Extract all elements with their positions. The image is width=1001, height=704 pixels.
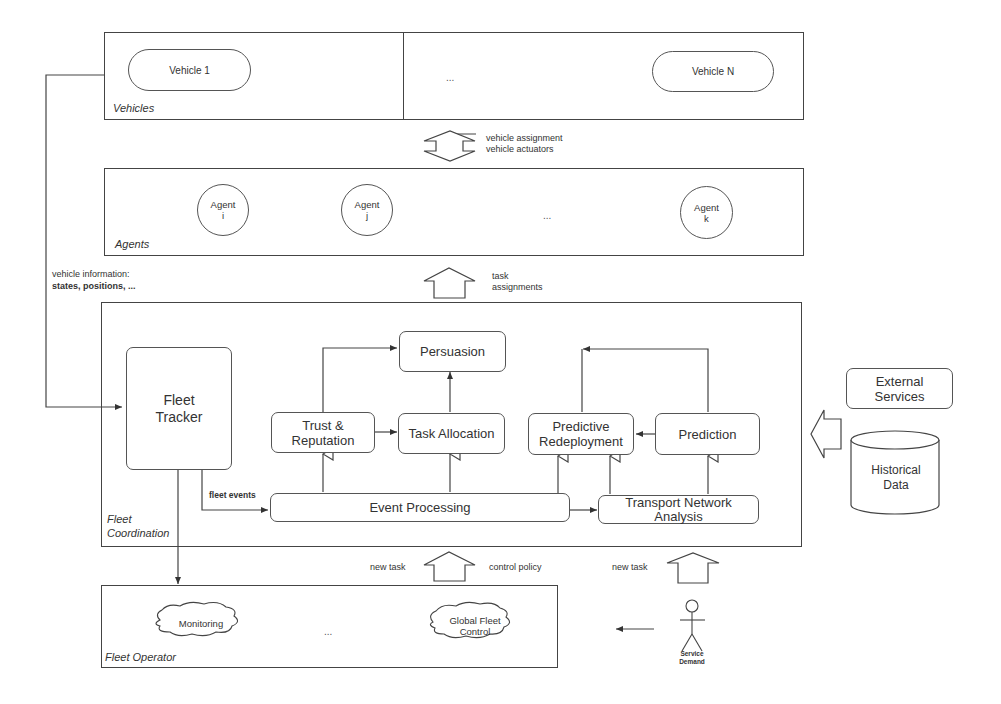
task-allocation-node[interactable]: Task Allocation — [398, 413, 505, 454]
vehicle-n-node[interactable]: Vehicle N — [652, 51, 774, 92]
actor-icon — [680, 600, 705, 651]
external-services-node[interactable]: External Services — [846, 368, 953, 409]
vehicles-ellipsis: ... — [446, 72, 454, 83]
fleet-events-label: fleet events — [209, 490, 256, 501]
monitoring-node[interactable]: Monitoring — [166, 618, 236, 629]
prediction-node[interactable]: Prediction — [655, 413, 760, 455]
control-policy-label: control policy — [489, 562, 542, 573]
task-assignments-label: task assignments — [492, 271, 543, 293]
event-processing-node[interactable]: Event Processing — [270, 493, 570, 522]
vehicle-information-detail: states, positions, ... — [52, 281, 136, 292]
fleet-coordination-layer-label: Fleet Coordination — [107, 512, 169, 540]
fleet-operator-ellipsis: ... — [324, 626, 332, 637]
agents-ellipsis: ... — [543, 210, 551, 221]
agent-i-node[interactable]: Agent i — [197, 184, 249, 236]
transport-network-analysis-node[interactable]: Transport Network Analysis — [598, 495, 759, 524]
vehicle-link-label: vehicle assignment vehicle actuators — [486, 133, 563, 155]
historical-data-label: Historical Data — [858, 463, 934, 493]
vehicle-information-title: vehicle information: — [52, 269, 130, 280]
service-demand-label: Service Demand — [670, 650, 714, 666]
vehicle-1-node[interactable]: Vehicle 1 — [128, 49, 251, 91]
fleet-operator-layer-label: Fleet Operator — [105, 651, 176, 663]
global-fleet-control-node[interactable]: Global Fleet Control — [437, 615, 513, 637]
new-task-left-label: new task — [370, 562, 406, 573]
agent-j-node[interactable]: Agent j — [341, 184, 393, 236]
predictive-redeployment-node[interactable]: Predictive Redeployment — [528, 413, 634, 455]
vehicles-layer-label: Vehicles — [113, 102, 154, 114]
fleet-tracker-node[interactable]: Fleet Tracker — [126, 347, 232, 470]
agent-k-node[interactable]: Agent k — [680, 186, 733, 239]
agents-layer-label: Agents — [115, 238, 149, 250]
new-task-right-label: new task — [612, 562, 648, 573]
persuasion-node[interactable]: Persuasion — [399, 331, 506, 372]
trust-reputation-node[interactable]: Trust & Reputation — [271, 412, 375, 453]
